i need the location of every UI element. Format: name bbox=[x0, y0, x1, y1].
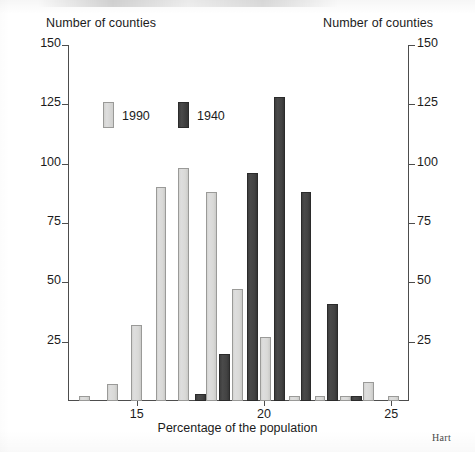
x-tick-label-25: 25 bbox=[384, 407, 398, 421]
y-tick-label-left-150: 150 bbox=[40, 37, 61, 50]
histogram-figure: Number of counties Number of counties 25… bbox=[0, 0, 475, 452]
y-tick-right-100 bbox=[409, 164, 415, 165]
bar-1940-2 bbox=[247, 173, 258, 401]
bar-1990-8 bbox=[289, 396, 300, 401]
bar-1940-5 bbox=[327, 304, 338, 401]
y-tick-left-150 bbox=[62, 45, 68, 46]
x-tick-15 bbox=[137, 401, 138, 406]
y-tick-label-right-25: 25 bbox=[417, 334, 431, 347]
x-tick-20 bbox=[264, 401, 265, 406]
x-tick-25 bbox=[391, 401, 392, 406]
bar-1940-6 bbox=[351, 396, 362, 401]
bar-1990-3 bbox=[156, 187, 167, 401]
x-tick-label-20: 20 bbox=[257, 407, 271, 421]
y-tick-left-50 bbox=[62, 282, 68, 283]
y-tick-right-75 bbox=[409, 223, 415, 224]
bar-1990-2 bbox=[131, 325, 142, 401]
bar-1990-4 bbox=[178, 168, 189, 401]
bar-1990-11 bbox=[363, 382, 374, 401]
y-tick-left-75 bbox=[62, 223, 68, 224]
legend-label-1990: 1990 bbox=[122, 109, 150, 123]
bar-1940-1 bbox=[219, 354, 230, 401]
bar-1990-6 bbox=[232, 289, 243, 401]
bar-1990-1 bbox=[107, 384, 118, 401]
credit-label: Hart bbox=[432, 432, 451, 443]
y-tick-left-125 bbox=[62, 104, 68, 105]
y-tick-label-right-100: 100 bbox=[417, 156, 438, 169]
x-axis-title: Percentage of the population bbox=[0, 421, 475, 435]
y-tick-right-125 bbox=[409, 104, 415, 105]
y-tick-label-left-75: 75 bbox=[47, 215, 61, 228]
plot-area: 255075100125150 255075100125150 152025 1… bbox=[68, 45, 409, 401]
bar-1940-4 bbox=[301, 192, 312, 401]
y-tick-label-right-125: 125 bbox=[417, 96, 438, 109]
y-tick-right-50 bbox=[409, 282, 415, 283]
bar-1940-3 bbox=[274, 97, 285, 401]
y-tick-label-right-75: 75 bbox=[417, 215, 431, 228]
y-tick-label-right-50: 50 bbox=[417, 274, 431, 287]
y-tick-label-left-25: 25 bbox=[47, 334, 61, 347]
bar-1990-9 bbox=[315, 396, 326, 401]
scan-artifact bbox=[38, 0, 338, 7]
y-axis-title-left: Number of counties bbox=[46, 16, 156, 30]
y-tick-label-left-50: 50 bbox=[47, 274, 61, 287]
bar-1990-5 bbox=[206, 192, 217, 401]
bar-1940-0 bbox=[195, 394, 206, 401]
x-tick-label-15: 15 bbox=[130, 407, 144, 421]
y-tick-right-25 bbox=[409, 342, 415, 343]
y-axis-left-line bbox=[68, 45, 69, 401]
bar-1990-10 bbox=[340, 396, 351, 401]
legend-label-1940: 1940 bbox=[197, 109, 225, 123]
bar-1990-0 bbox=[79, 396, 90, 401]
legend-swatch-1990 bbox=[103, 102, 114, 128]
bar-1990-12 bbox=[388, 396, 399, 401]
legend-swatch-1940 bbox=[178, 102, 189, 128]
bar-1990-7 bbox=[260, 337, 271, 401]
y-tick-label-left-125: 125 bbox=[40, 96, 61, 109]
y-tick-right-150 bbox=[409, 45, 415, 46]
y-tick-left-100 bbox=[62, 164, 68, 165]
y-tick-label-left-100: 100 bbox=[40, 156, 61, 169]
y-tick-label-right-150: 150 bbox=[417, 37, 438, 50]
y-axis-title-right: Number of counties bbox=[323, 16, 433, 30]
y-tick-left-25 bbox=[62, 342, 68, 343]
